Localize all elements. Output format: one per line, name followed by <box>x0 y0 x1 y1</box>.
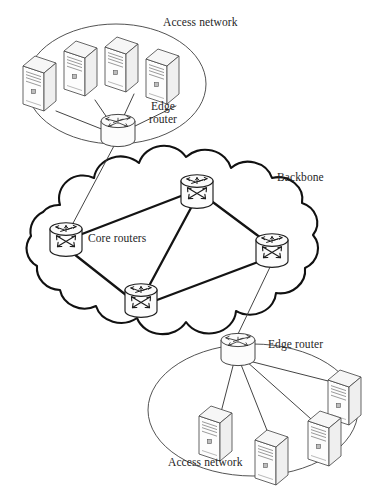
label-edge-router-bottom: Edge router <box>268 338 323 351</box>
pc-top-1[interactable] <box>23 56 56 111</box>
network-topology-diagram: Access network Edge router Backbone Core… <box>0 0 383 492</box>
pc-top-3[interactable] <box>105 37 138 92</box>
pc-bot-4[interactable] <box>308 411 341 466</box>
link-pc-bot-1 <box>249 361 340 384</box>
link-pc-top-1 <box>56 111 104 130</box>
pc-bot-2[interactable] <box>199 406 232 461</box>
edge-router-bottom[interactable] <box>221 333 255 365</box>
core-router-right[interactable] <box>256 234 288 268</box>
label-access-network-bottom: Access network <box>168 456 243 469</box>
link-core-right-bottom <box>157 262 258 300</box>
label-edge-router-top: Edge router <box>139 100 187 126</box>
label-core-routers: Core routers <box>88 232 146 245</box>
link-core-left-bottom <box>74 254 126 295</box>
links-layer <box>56 94 340 443</box>
link-core-right-to-edge-bottom <box>238 265 271 334</box>
core-router-top[interactable] <box>181 175 213 209</box>
edge-router-top[interactable] <box>101 114 135 146</box>
link-core-left-top <box>82 196 181 234</box>
link-edge-top-to-core-left <box>71 144 115 227</box>
pc-top-4[interactable] <box>146 49 179 104</box>
core-router-left[interactable] <box>50 223 82 257</box>
label-backbone: Backbone <box>277 171 324 184</box>
pc-bot-3[interactable] <box>255 430 288 485</box>
core-router-bottom[interactable] <box>125 284 157 318</box>
link-pc-bot-4 <box>246 361 320 427</box>
link-core-top-right <box>210 200 261 238</box>
label-access-network-top: Access network <box>163 16 238 29</box>
pc-top-2[interactable] <box>64 41 97 96</box>
diagram-canvas <box>0 0 383 492</box>
link-core-top-bottom <box>149 206 192 286</box>
